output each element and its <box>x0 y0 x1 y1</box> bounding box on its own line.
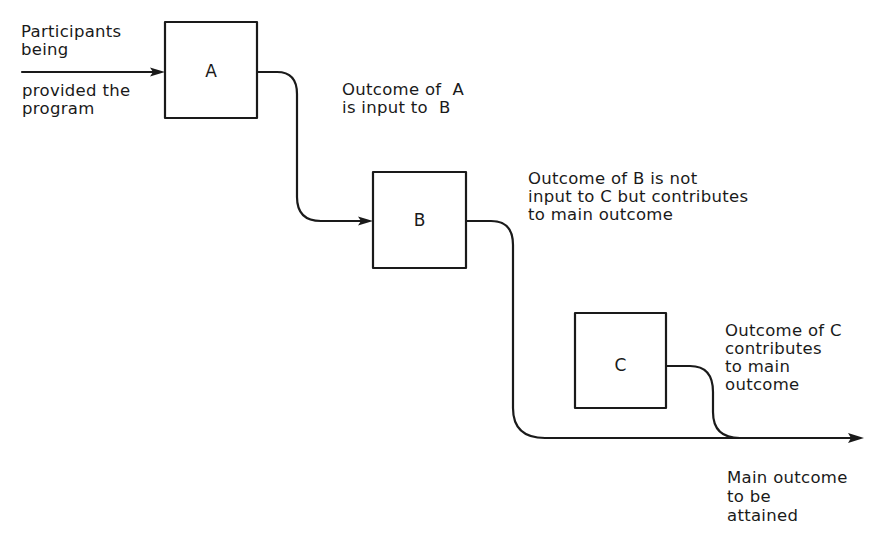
input-label-bottom: provided the program <box>22 82 130 118</box>
c-outcome-note: Outcome of C contributes to main outcome <box>725 322 842 394</box>
main-outcome-label: Main outcome to be attained <box>727 468 848 525</box>
box-b-label: B <box>373 210 466 230</box>
box-a-label: A <box>165 61 257 81</box>
box-c-label: C <box>575 355 666 375</box>
a-to-b-note: Outcome of A is input to B <box>342 81 464 117</box>
input-label-top: Participants being <box>21 23 122 59</box>
b-outcome-note: Outcome of B is not input to C but contr… <box>528 170 748 224</box>
